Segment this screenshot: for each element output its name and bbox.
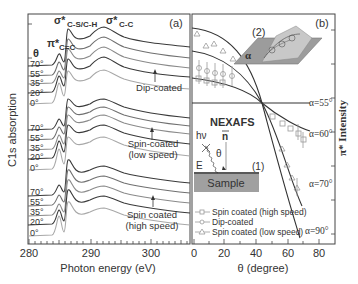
panel-b: α=55° α=60° α=70° α=90° (2) α (b) NEXAFS… (191, 14, 348, 274)
normal-label: n (222, 131, 228, 142)
peak-label-pi-cc: π* C=C (47, 37, 75, 52)
legend-high-speed: Spin coated (high speed) (212, 207, 307, 217)
inset-molecule-plane: (2) α (234, 26, 322, 64)
svg-text:70°: 70° (30, 59, 44, 69)
peak-label-sigma-cs-ch: σ* C-S/C-H (54, 14, 97, 29)
svg-text:Spin-coated: Spin-coated (128, 138, 179, 149)
svg-text:C-C: C-C (119, 20, 133, 29)
svg-text:Spin coated: Spin coated (127, 209, 177, 220)
label-alpha-90: α=90° (305, 226, 329, 236)
legend: Spin coated (high speed) Dip-coated Spin… (195, 207, 307, 237)
svg-text:55°: 55° (30, 197, 44, 207)
e-field-label: E (196, 160, 203, 171)
x-axis-label: Photon energy (eV) (60, 262, 155, 274)
x-axis-label-b: θ (degree) (238, 262, 289, 274)
x-tick-40: 40 (250, 247, 262, 259)
y-axis-label: C1s absorption (6, 93, 18, 167)
angle-labels-dip: 70° 55° 35° 20° 0° (30, 59, 44, 108)
svg-text:55°: 55° (30, 133, 44, 143)
svg-text:Dip-coated: Dip-coated (136, 82, 182, 93)
svg-text:σ*: σ* (54, 14, 66, 26)
angle-labels-spin-high: 70° 55° 35° 20° 0° (30, 187, 44, 238)
sample-label: Sample (207, 177, 244, 189)
svg-text:70°: 70° (30, 187, 44, 197)
inset-label-1: (1) (252, 161, 264, 172)
label-alpha-55: α=55° (309, 98, 333, 108)
x-tick-20: 20 (218, 247, 230, 259)
theta-label: θ (216, 148, 222, 159)
inset-nexafs-geometry: NEXAFS hν n θ E (1) Sample (194, 116, 264, 192)
nexafs-label: NEXAFS (210, 116, 255, 128)
svg-text:20°: 20° (30, 88, 44, 98)
panel-label-b: (b) (315, 17, 328, 29)
legend-low-speed: Spin coated (low speed) (212, 227, 303, 237)
x-tick-280: 280 (20, 247, 38, 259)
panel-label-a: (a) (169, 17, 182, 29)
hv-label: hν (196, 130, 207, 141)
peak-label-sigma-cc: σ* C-C (106, 14, 133, 29)
x-tick-80: 80 (313, 247, 325, 259)
x-tick-300: 300 (142, 247, 160, 259)
x-tick-60: 60 (282, 247, 294, 259)
x-tick-290: 290 (82, 247, 100, 259)
svg-text:σ*: σ* (106, 14, 118, 26)
svg-text:0°: 0° (30, 98, 39, 108)
svg-text:20°: 20° (30, 152, 44, 162)
inset-alpha: α (245, 49, 252, 61)
svg-text:20°: 20° (30, 217, 44, 227)
angle-labels-spin-low: 70° 55° 35° 20° 0° (30, 123, 44, 173)
label-alpha-60: α=60° (309, 129, 333, 139)
svg-text:0°: 0° (30, 228, 39, 238)
svg-text:(low speed): (low speed) (128, 149, 177, 160)
svg-text:C-S/C-H: C-S/C-H (67, 20, 97, 29)
svg-text:70°: 70° (30, 123, 44, 133)
spectra-curves (28, 27, 190, 236)
y-axis-label-b: π* Intensity (336, 100, 348, 156)
svg-text:(high speed): (high speed) (126, 220, 179, 231)
panel-a: 280 290 300 Photon energy (eV) C1s absor… (6, 14, 190, 274)
svg-text:C=C: C=C (59, 43, 75, 52)
nexafs-figure: 280 290 300 Photon energy (eV) C1s absor… (0, 0, 358, 284)
annotation-dip-coated: Dip-coated (136, 69, 182, 93)
legend-dip: Dip-coated (212, 217, 253, 227)
svg-text:35°: 35° (30, 78, 44, 88)
theta-header: θ (33, 47, 39, 59)
label-alpha-70: α=70° (309, 179, 333, 189)
svg-text:0°: 0° (30, 163, 39, 173)
svg-text:35°: 35° (30, 207, 44, 217)
x-tick-0: 0 (191, 247, 197, 259)
inset-label-2: (2) (252, 26, 265, 38)
